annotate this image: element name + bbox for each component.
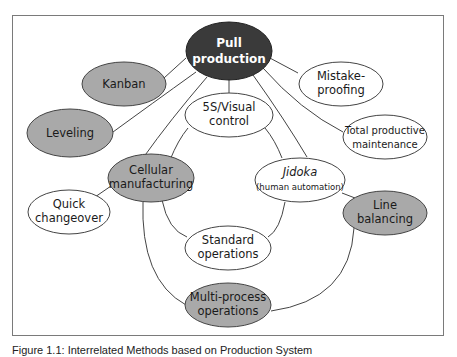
figure-caption: Figure 1.1: Interrelated Methods based o… bbox=[12, 343, 312, 357]
node-line-balancing-line1: Line bbox=[373, 198, 397, 212]
node-mistake-proofing-line2: proofing bbox=[317, 83, 365, 97]
edge-cellular-standard bbox=[162, 200, 187, 237]
node-standard-operations: Standard operations bbox=[185, 226, 271, 270]
edge-cellular-multi bbox=[143, 200, 186, 305]
node-standard-operations-line2: operations bbox=[197, 247, 258, 261]
node-cellular-line1: Cellular bbox=[129, 163, 173, 177]
node-mistake-proofing-line1: Mistake- bbox=[317, 69, 365, 83]
node-jidoka-line2: (human automation) bbox=[256, 182, 344, 192]
node-pull-production-line2: production bbox=[192, 52, 266, 66]
node-multi-process-line1: Multi-process bbox=[190, 290, 266, 304]
node-line-balancing: Line balancing bbox=[343, 191, 427, 235]
node-multi-process-operations: Multi-process operations bbox=[185, 283, 271, 327]
node-quick-changeover-line2: changeover bbox=[35, 211, 103, 225]
node-kanban: Kanban bbox=[82, 62, 166, 106]
edge-line-multi bbox=[271, 228, 354, 311]
node-jidoka: Jidoka (human automation) bbox=[255, 158, 345, 202]
edge-pull-mistake bbox=[268, 57, 298, 73]
node-cellular-line2: manufacturing bbox=[109, 177, 194, 191]
node-quick-changeover: Quick changeover bbox=[28, 190, 110, 234]
node-visual-control-line1: 5S/Visual bbox=[203, 100, 256, 114]
node-tpm: Total productive maintenance bbox=[343, 115, 427, 159]
node-leveling-label: Leveling bbox=[46, 126, 94, 140]
edge-pull-kanban bbox=[164, 58, 186, 78]
node-tpm-line2: maintenance bbox=[352, 139, 418, 150]
edge-jidoka-line bbox=[342, 193, 355, 198]
node-kanban-label: Kanban bbox=[102, 77, 145, 91]
node-standard-operations-line1: Standard bbox=[202, 233, 254, 247]
node-mistake-proofing: Mistake- proofing bbox=[299, 62, 383, 106]
node-leveling: Leveling bbox=[27, 109, 113, 157]
node-tpm-line1: Total productive bbox=[344, 125, 425, 136]
node-jidoka-line1: Jidoka bbox=[281, 165, 318, 179]
node-line-balancing-line2: balancing bbox=[357, 212, 413, 226]
node-visual-control: 5S/Visual control bbox=[185, 93, 273, 137]
edge-visual-cellular bbox=[170, 128, 188, 160]
edge-jidoka-standard bbox=[268, 202, 285, 237]
node-quick-changeover-line1: Quick bbox=[53, 197, 86, 211]
edge-visual-jidoka bbox=[265, 128, 282, 158]
node-visual-control-line2: control bbox=[209, 114, 249, 128]
node-cellular-manufacturing: Cellular manufacturing bbox=[108, 154, 194, 202]
node-pull-production-line1: Pull bbox=[216, 36, 242, 50]
node-pull-production: Pull production bbox=[186, 22, 272, 80]
node-multi-process-line2: operations bbox=[197, 304, 258, 318]
